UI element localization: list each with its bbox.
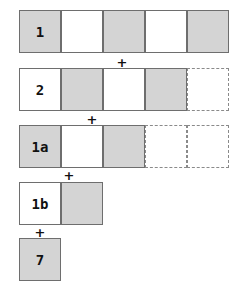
bit-cell [61, 68, 103, 111]
empty-slot-cell [145, 125, 187, 168]
bit-cell [145, 68, 187, 111]
empty-slot-cell [187, 125, 229, 168]
plus-operator: + [64, 169, 75, 182]
empty-slot-cell [187, 68, 229, 111]
row-label: 7 [36, 252, 44, 268]
row-label-cell: 1 [19, 10, 61, 53]
row-label-cell: 2 [19, 68, 61, 111]
row-label-cell: 7 [19, 238, 61, 281]
bit-cell [61, 10, 103, 53]
bit-cell [103, 10, 145, 53]
plus-operator: + [87, 113, 98, 126]
bit-cell [103, 68, 145, 111]
row-label: 1b [32, 196, 49, 212]
row-label-cell: 1a [19, 125, 61, 168]
plus-operator: + [35, 226, 46, 239]
bit-cell [61, 125, 103, 168]
row-label: 1 [36, 24, 44, 40]
plus-operator: + [117, 56, 128, 69]
row-label: 1a [32, 139, 49, 155]
bit-cell [61, 182, 103, 225]
bit-cell [187, 10, 229, 53]
row-label-cell: 1b [19, 182, 61, 225]
bit-cell [145, 10, 187, 53]
row-label: 2 [36, 82, 44, 98]
bit-cell [103, 125, 145, 168]
